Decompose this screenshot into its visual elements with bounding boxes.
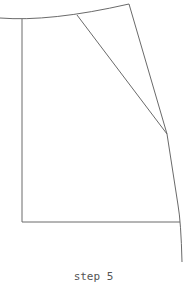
top-waist-curve [0,4,129,19]
step-caption: step 5 [0,270,187,284]
dart-diagonal-line [77,15,167,134]
right-side-seam [129,4,182,262]
